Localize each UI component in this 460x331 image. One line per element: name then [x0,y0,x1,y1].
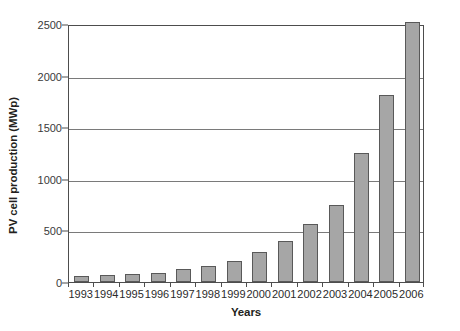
x-axis-tick-mark [271,283,272,287]
x-axis-tick-mark [93,283,94,287]
x-axis-tick-label: 1994 [94,288,118,300]
y-axis-tick-label: 1500 [26,122,62,134]
x-axis-tick-mark [246,283,247,287]
x-axis-tick-label: 1996 [145,288,169,300]
y-axis-title: PV cell production (MWp) [0,0,26,331]
bar [74,276,89,282]
bar [151,273,166,282]
x-axis-tick-mark [195,283,196,287]
x-axis-tick-mark [221,283,222,287]
y-axis-tick-label: 500 [26,225,62,237]
y-axis-tick-mark [62,76,68,77]
y-axis-tick-mark [62,179,68,180]
bar [405,22,420,282]
x-axis-tick-label: 2002 [297,288,321,300]
bar [379,95,394,282]
x-axis-tick-label: 2005 [374,288,398,300]
x-axis-tick-label: 2000 [246,288,270,300]
x-axis-tick-mark [373,283,374,287]
x-axis-tick-mark [144,283,145,287]
bar [100,275,115,282]
x-axis-tick-mark [297,283,298,287]
x-axis-tick-mark [348,283,349,287]
x-axis-tick-label: 1993 [68,288,92,300]
x-axis-title: Years [68,306,424,318]
x-axis-tick-mark [423,283,424,287]
x-axis-tick-label: 1998 [196,288,220,300]
bar [227,261,242,282]
y-axis-tick-label: 1000 [26,174,62,186]
x-axis-tick-mark [399,283,400,287]
bar [125,274,140,282]
y-axis-tick-mark [62,128,68,129]
pv-cell-production-bar-chart: PV cell production (MWp) 050010001500200… [0,0,460,331]
x-axis-tick-label: 1995 [119,288,143,300]
y-axis-tick-mark [62,25,68,26]
bar [252,252,267,282]
y-axis-tick-mark [62,283,68,284]
bar [201,266,216,282]
y-axis-tick-label: 2000 [26,71,62,83]
bar [303,224,318,282]
y-axis-tick-mark [62,231,68,232]
x-axis-tick-mark [119,283,120,287]
bar [354,153,369,282]
y-axis-tick-labels: 05001000150020002500 [26,0,62,331]
x-axis-tick-label: 2001 [272,288,296,300]
bar [278,241,293,282]
x-axis-tick-mark [322,283,323,287]
x-axis-tick-mark [170,283,171,287]
y-axis-tick-label: 0 [26,277,62,289]
x-axis-tick-label: 1997 [170,288,194,300]
x-axis-tick-label: 2006 [399,288,423,300]
x-axis-tick-label: 2003 [323,288,347,300]
y-axis-tick-label: 2500 [26,19,62,31]
bar-series [69,26,423,282]
bar [176,269,191,282]
x-axis-tick-mark [68,283,69,287]
bar [329,205,344,282]
x-axis-tick-label: 2004 [348,288,372,300]
x-axis-tick-label: 1999 [221,288,245,300]
plot-area [68,25,424,283]
